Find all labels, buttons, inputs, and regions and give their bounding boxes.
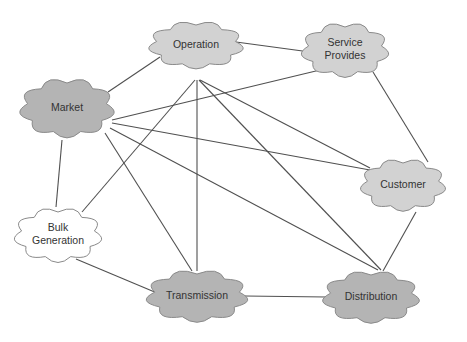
- node-service: ServiceProvides: [301, 24, 388, 78]
- node-transmission: Transmission: [146, 271, 247, 322]
- node-label: Generation: [32, 234, 84, 246]
- edge-bulk-transmission: [76, 259, 157, 293]
- nodes-layer: OperationServiceProvidesMarketCustomerBu…: [14, 22, 445, 323]
- node-label: Transmission: [166, 289, 228, 301]
- node-label: Operation: [173, 38, 219, 50]
- node-label: Bulk: [48, 221, 69, 233]
- edge-market-customer: [112, 123, 370, 170]
- edge-market-distribution: [110, 128, 378, 270]
- node-distribution: Distribution: [323, 272, 420, 323]
- node-operation: Operation: [149, 22, 243, 69]
- edge-market-operation: [108, 57, 160, 92]
- node-bulk: BulkGeneration: [14, 209, 101, 263]
- node-market: Market: [20, 80, 114, 138]
- edge-service-customer: [373, 72, 428, 162]
- node-customer: Customer: [360, 160, 445, 211]
- edge-market-service: [112, 70, 320, 120]
- node-label: Market: [51, 101, 83, 113]
- node-label: Distribution: [345, 290, 398, 302]
- node-label: Provides: [325, 49, 366, 61]
- edge-operation-distribution: [199, 80, 381, 270]
- edge-market-transmission: [105, 133, 192, 271]
- edge-operation-service: [236, 42, 310, 52]
- edge-customer-distribution: [383, 212, 416, 271]
- network-diagram: OperationServiceProvidesMarketCustomerBu…: [0, 0, 467, 342]
- node-label: Customer: [380, 178, 426, 190]
- edge-transmission-distribution: [245, 296, 326, 297]
- node-label: Service: [327, 36, 362, 48]
- edge-market-bulk: [56, 140, 62, 207]
